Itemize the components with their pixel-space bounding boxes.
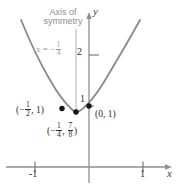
axis-of-symmetry-line2: symmetry: [37, 17, 89, 26]
y-axis-label: y: [93, 6, 98, 18]
point-label-vertex-fraction-y: 78: [68, 122, 74, 138]
equation-numerator: 1: [56, 42, 62, 49]
point-label-left-prefix: (−: [16, 105, 25, 115]
point-marker-vertex[interactable]: [73, 109, 78, 114]
x-tick-label-1: 1: [140, 169, 145, 180]
y-tick-label-1: 1: [80, 94, 85, 105]
x-tick-label-neg1: -1: [29, 169, 37, 180]
point-marker-y-intercept[interactable]: [86, 103, 91, 108]
figure-parabola-graph: Axis of symmetry x = −14 2 1 -1 1 y x (−…: [0, 0, 182, 188]
point-label-vertex-y-denominator: 8: [68, 130, 74, 139]
point-label-vertex-prefix: (−: [47, 126, 56, 136]
point-label-y-intercept: (0, 1): [95, 110, 116, 120]
x-axis-label: x: [167, 168, 172, 180]
point-label-vertex: (−14, 78): [47, 122, 77, 138]
point-label-vertex-x-denominator: 4: [56, 130, 62, 139]
point-label-vertex-x-numerator: 1: [56, 122, 62, 130]
point-marker-left[interactable]: [59, 106, 64, 111]
equation-denominator: 4: [56, 49, 62, 57]
point-label-left-fraction: 12: [25, 101, 31, 117]
axis-of-symmetry-equation: x = −14: [36, 42, 62, 57]
point-label-vertex-fraction-x: 14: [56, 122, 62, 138]
point-label-left: (−12, 1): [16, 101, 44, 117]
point-label-left-denominator: 2: [25, 109, 31, 118]
point-label-vertex-mid: ,: [62, 126, 67, 136]
equation-fraction: 14: [56, 42, 62, 57]
y-tick-label-2: 2: [77, 47, 82, 58]
equation-lhs: x = −: [36, 44, 55, 54]
graph-canvas: [0, 0, 182, 188]
y-axis: [84, 12, 99, 183]
point-label-vertex-y-numerator: 7: [68, 122, 74, 130]
axis-of-symmetry-label: Axis of symmetry: [37, 8, 89, 27]
point-label-vertex-suffix: ): [74, 126, 77, 136]
point-label-left-suffix: , 1): [31, 105, 44, 115]
point-label-left-numerator: 1: [25, 101, 31, 109]
